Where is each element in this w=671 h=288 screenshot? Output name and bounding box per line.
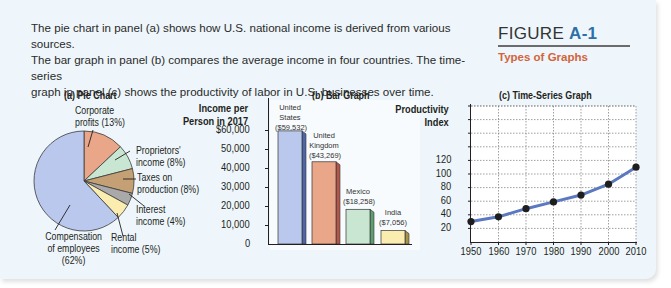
data-point xyxy=(605,181,612,188)
xtick: 1950 xyxy=(460,245,482,257)
figure-card: The pie chart in panel (a) shows how U.S… xyxy=(0,0,656,279)
data-point xyxy=(577,191,584,198)
data-point xyxy=(495,213,502,220)
xtick: 1960 xyxy=(488,245,510,257)
xtick: 1990 xyxy=(570,245,592,257)
data-point xyxy=(522,205,529,212)
data-point xyxy=(550,198,557,205)
data-point xyxy=(632,164,639,171)
xtick: 1980 xyxy=(543,245,565,257)
data-point xyxy=(467,218,474,225)
xtick: 2000 xyxy=(598,245,620,257)
xtick: 1970 xyxy=(515,245,537,257)
xtick: 2010 xyxy=(625,245,647,257)
